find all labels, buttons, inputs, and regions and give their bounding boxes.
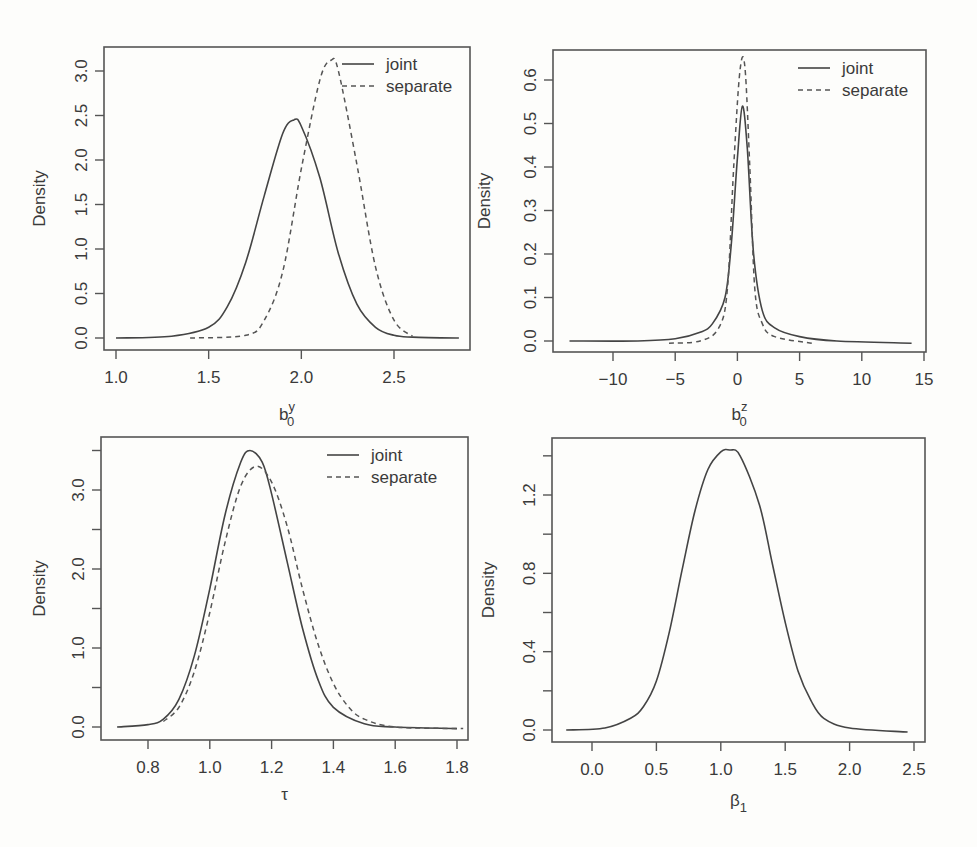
y-tick-label: 1.5 bbox=[72, 193, 91, 217]
legend-label-joint: joint bbox=[841, 59, 873, 78]
y-tick-label: 0.8 bbox=[520, 562, 539, 586]
y-tick-label: 0.6 bbox=[521, 68, 540, 92]
y-tick-label: 0.0 bbox=[72, 326, 91, 350]
density-curve-joint bbox=[570, 106, 912, 343]
x-tick-label: 15 bbox=[915, 370, 934, 389]
x-tick-label: 1.5 bbox=[197, 368, 221, 387]
y-tick-label: 1.0 bbox=[69, 636, 88, 660]
y-tick-label: 0.5 bbox=[72, 282, 91, 306]
y-tick-label: 0.0 bbox=[69, 715, 88, 739]
x-axis-label: bz0 bbox=[732, 399, 748, 429]
legend-label-separate: separate bbox=[386, 77, 452, 96]
plot-frame bbox=[552, 438, 925, 742]
density-curve-separate bbox=[190, 58, 412, 338]
x-axis-label: by0 bbox=[279, 399, 295, 429]
density-figure: 1.01.52.02.50.00.51.01.52.02.53.0Density… bbox=[0, 0, 977, 847]
x-tick-label: 1.8 bbox=[445, 758, 469, 777]
y-tick-label: 0.0 bbox=[521, 329, 540, 353]
x-tick-label: 1.0 bbox=[104, 368, 128, 387]
x-tick-label: 1.5 bbox=[773, 760, 797, 779]
y-tick-label: 3.0 bbox=[72, 59, 91, 83]
x-tick-label: 0.5 bbox=[645, 760, 669, 779]
legend: jointseparate bbox=[327, 446, 437, 487]
y-tick-label: 0.1 bbox=[521, 286, 540, 310]
x-tick-label: 1.2 bbox=[260, 758, 284, 777]
y-tick-label: 0.5 bbox=[521, 112, 540, 136]
density-curve-posterior bbox=[566, 449, 907, 732]
x-tick-label: 1.6 bbox=[383, 758, 407, 777]
x-axis-label: β1 bbox=[730, 791, 747, 815]
y-tick-label: 0.0 bbox=[520, 718, 539, 742]
legend: jointseparate bbox=[798, 59, 908, 100]
density-curve-joint bbox=[116, 119, 459, 338]
legend-label-joint: joint bbox=[370, 446, 402, 465]
panel-bottom-right: 0.00.51.01.52.02.50.00.40.81.2Densityβ1 bbox=[479, 438, 926, 815]
y-tick-label: 1.0 bbox=[72, 237, 91, 261]
x-tick-label: 0.0 bbox=[580, 760, 604, 779]
legend: jointseparate bbox=[342, 55, 452, 96]
y-axis-label: Density bbox=[479, 561, 498, 618]
y-tick-label: 2.5 bbox=[72, 104, 91, 128]
y-tick-label: 2.0 bbox=[72, 148, 91, 172]
y-axis-label: Density bbox=[30, 560, 49, 617]
panel-bottom-left: 0.81.01.21.41.61.80.01.02.03.0Densityτjo… bbox=[30, 437, 469, 804]
y-tick-label: 0.3 bbox=[521, 199, 540, 223]
density-curve-separate bbox=[669, 57, 812, 344]
x-tick-label: 2.5 bbox=[382, 368, 406, 387]
x-tick-label: 5 bbox=[795, 370, 804, 389]
x-tick-label: 2.5 bbox=[902, 760, 926, 779]
y-tick-label: 1.2 bbox=[520, 483, 539, 507]
legend-label-separate: separate bbox=[371, 468, 437, 487]
x-tick-label: 10 bbox=[852, 370, 871, 389]
x-tick-label: 0 bbox=[733, 370, 742, 389]
y-tick-label: 0.2 bbox=[521, 242, 540, 266]
x-tick-label: −5 bbox=[666, 370, 685, 389]
x-tick-label: 2.0 bbox=[838, 760, 862, 779]
x-tick-label: 1.4 bbox=[322, 758, 346, 777]
y-tick-label: 2.0 bbox=[69, 557, 88, 581]
y-tick-label: 0.4 bbox=[521, 155, 540, 179]
density-curve-joint bbox=[117, 451, 457, 729]
panel-top-right: −10−50510150.00.10.20.30.40.50.6Densityb… bbox=[475, 50, 933, 429]
x-tick-label: −10 bbox=[599, 370, 628, 389]
y-axis-label: Density bbox=[475, 172, 494, 229]
x-tick-label: 1.0 bbox=[709, 760, 733, 779]
x-axis-label: τ bbox=[281, 785, 288, 804]
legend-label-joint: joint bbox=[385, 55, 417, 74]
legend-label-separate: separate bbox=[842, 81, 908, 100]
x-tick-label: 1.0 bbox=[198, 758, 222, 777]
panel-top-left: 1.01.52.02.50.00.51.01.52.02.53.0Density… bbox=[30, 47, 470, 429]
y-tick-label: 0.4 bbox=[520, 640, 539, 664]
y-tick-label: 3.0 bbox=[69, 478, 88, 502]
x-tick-label: 2.0 bbox=[290, 368, 314, 387]
y-axis-label: Density bbox=[30, 170, 49, 227]
x-tick-label: 0.8 bbox=[136, 758, 160, 777]
